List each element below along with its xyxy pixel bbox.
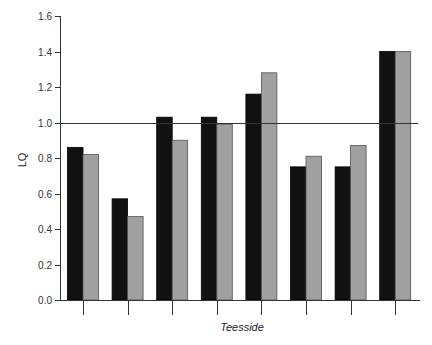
bar-series-2-group-7	[351, 146, 367, 300]
bar-series-1-group-2	[112, 199, 128, 300]
x-axis-ticks	[84, 300, 396, 315]
y-tick-label: 0.2	[38, 260, 52, 271]
bar-series-2-group-6	[306, 156, 322, 300]
bar-series-2-group-8	[395, 52, 411, 301]
bar-series-1-group-1	[68, 147, 84, 300]
bar-series-1-group-5	[246, 94, 262, 300]
bar-series-1-group-8	[380, 52, 396, 301]
bar-series-1-group-3	[157, 117, 173, 300]
y-axis-title: LQ	[16, 152, 28, 167]
bar-series-2-group-5	[261, 73, 277, 300]
bars-layer	[68, 52, 411, 301]
y-tick-label: 1.4	[38, 47, 52, 58]
bar-series-2-group-4	[217, 124, 233, 300]
y-tick-label: 1.2	[38, 82, 52, 93]
y-tick-label: 0.8	[38, 153, 52, 164]
x-axis-title: Teesside	[220, 321, 264, 333]
lq-bar-chart: 0.00.20.40.60.81.01.21.41.6 LQ Teesside	[0, 0, 432, 345]
bar-series-1-group-6	[291, 167, 307, 300]
y-axis-ticks: 0.00.20.40.60.81.01.21.41.6	[38, 11, 60, 306]
y-tick-label: 1.0	[38, 118, 52, 129]
bar-series-1-group-4	[201, 117, 217, 300]
y-tick-label: 0.6	[38, 189, 52, 200]
bar-series-2-group-3	[172, 140, 188, 300]
y-tick-label: 0.4	[38, 224, 52, 235]
bar-series-2-group-2	[128, 217, 144, 300]
y-tick-label: 1.6	[38, 11, 52, 22]
y-tick-label: 0.0	[38, 295, 52, 306]
bar-series-2-group-1	[83, 154, 99, 300]
bar-series-1-group-7	[335, 167, 351, 300]
